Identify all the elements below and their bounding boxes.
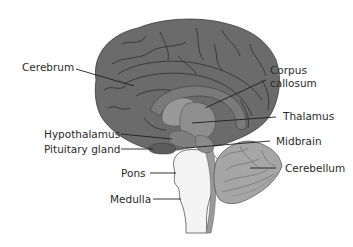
label-corpus-callosum-line1: Corpus [270,64,307,76]
label-pituitary-gland: Pituitary gland [44,143,120,155]
cerebellum-shape [214,141,282,204]
label-cerebellum: Cerebellum [285,162,345,174]
label-medulla: Medulla [110,193,151,205]
label-cerebrum: Cerebrum [22,61,74,73]
label-corpus-callosum-line2: callosum [270,77,317,89]
label-thalamus: Thalamus [283,110,334,122]
label-midbrain: Midbrain [276,135,322,147]
label-hypothalamus: Hypothalamus [44,128,120,140]
label-pons: Pons [121,167,146,179]
brain-illustration [0,0,353,247]
brain-diagram: Cerebrum Corpus callosum Thalamus Hypoth… [0,0,353,247]
